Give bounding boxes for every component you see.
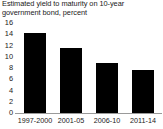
y-axis-tick-6: 6 [9, 76, 13, 83]
y-axis-tick-12: 12 [5, 42, 13, 49]
x-axis-baseline [15, 113, 162, 114]
chart-title: Estimated yield to maturity on 10-year g… [2, 0, 162, 17]
x-axis-tick-labels: 1997-20002001-052006-102011-14 [15, 116, 163, 128]
y-axis-tick-labels: 0246810121416 [0, 23, 15, 113]
chart-figure: Estimated yield to maturity on 10-year g… [0, 0, 163, 129]
y-axis-tick-14: 14 [5, 31, 13, 38]
plot-area [17, 23, 161, 113]
y-axis-tick-2: 2 [9, 98, 13, 105]
y-axis-tick-4: 4 [9, 87, 13, 94]
x-axis-tick-1997-2000: 1997-2000 [18, 116, 52, 125]
x-axis-tick-2001-05: 2001-05 [58, 116, 84, 125]
y-axis-tick-0: 0 [9, 109, 13, 116]
bar-2006-10 [96, 63, 118, 113]
x-axis-tick-2006-10: 2006-10 [94, 116, 120, 125]
bar-1997-2000 [24, 33, 46, 113]
chart-title-line-2: government bond, percent [2, 9, 162, 18]
y-axis-tick-16: 16 [5, 19, 13, 26]
x-axis-tick-2011-14: 2011-14 [130, 116, 156, 125]
y-axis-tick-8: 8 [9, 64, 13, 71]
bar-2011-14 [132, 70, 154, 113]
bar-2001-05 [60, 48, 82, 113]
y-axis-tick-10: 10 [5, 53, 13, 60]
